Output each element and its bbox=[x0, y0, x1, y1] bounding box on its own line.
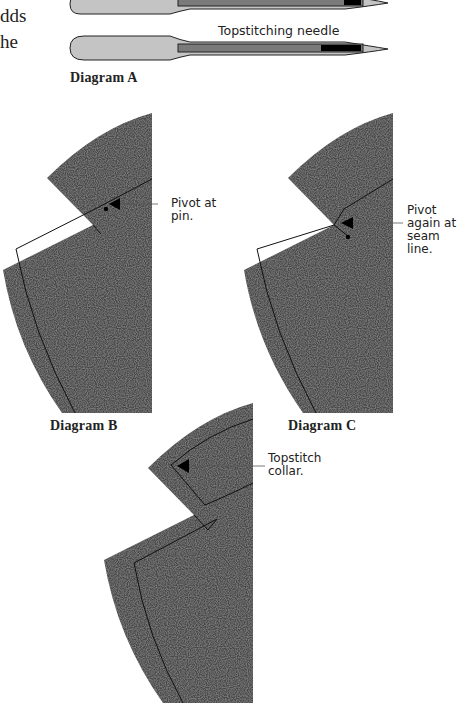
collar-shape-b bbox=[3, 113, 158, 413]
needle-label: Topstitching needle bbox=[218, 24, 339, 37]
callout-b: Pivot at pin. bbox=[171, 197, 216, 223]
topstitching-needle bbox=[70, 36, 388, 60]
collar-shape-c bbox=[244, 113, 403, 413]
callout-d: Topstitch collar. bbox=[268, 452, 321, 478]
universal-needle bbox=[70, 0, 388, 14]
diagram-b-caption: Diagram B bbox=[50, 418, 118, 434]
pin-dot bbox=[104, 207, 108, 211]
callout-c: Pivot again at seam line. bbox=[407, 204, 462, 256]
collar-shape-d bbox=[104, 403, 265, 703]
diagram-a-caption: Diagram A bbox=[70, 70, 138, 86]
diagram-canvas bbox=[0, 0, 462, 710]
pin-dot bbox=[346, 235, 350, 239]
diagram-c-caption: Diagram C bbox=[288, 418, 356, 434]
